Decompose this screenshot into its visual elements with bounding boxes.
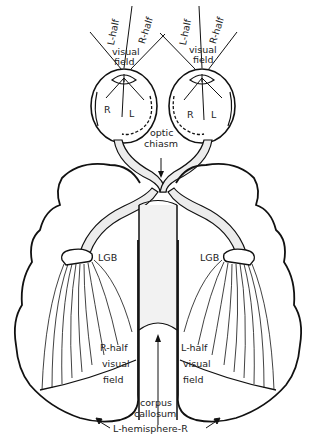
right-cortex-label-line3: field: [183, 375, 204, 385]
right-eye-field-label: field: [193, 55, 214, 65]
right-cortex-label-line2: visual: [183, 359, 211, 369]
corpus-callosum-label-line2: callosum: [134, 409, 176, 419]
chiasm-label-line1: optic: [150, 128, 173, 138]
right-eye: [169, 69, 235, 143]
right-eye-retina-r-label: R: [187, 110, 194, 120]
chiasm-arrow: [158, 158, 164, 178]
left-eye-field-label: field: [114, 57, 135, 67]
lgb-left-label: LGB: [98, 253, 117, 263]
corpus-callosum-label-line1: corpus: [140, 398, 172, 408]
left-cortex-label-line3: field: [103, 375, 124, 385]
left-eye: [91, 69, 157, 143]
left-eye-retina-l-label: L: [129, 109, 134, 119]
hemisphere-label: L-hemisphere-R: [113, 424, 188, 434]
corpus-callosum-shape: [139, 201, 177, 426]
visual-pathway-diagram: L-half R-half visual field R L L-half R-…: [0, 0, 316, 442]
left-cortex-label-line1: R-half: [100, 343, 127, 353]
chiasm-label-line2: chiasm: [144, 139, 178, 149]
right-eye-retina-l-label: L: [211, 110, 216, 120]
lgb-right-label: LGB: [200, 253, 219, 263]
left-eye-retina-r-label: R: [104, 105, 111, 115]
left-cortex-label-line2: visual: [102, 359, 130, 369]
right-cortex-label-line1: L-half: [181, 343, 207, 353]
diagram-drawing: [0, 0, 316, 442]
